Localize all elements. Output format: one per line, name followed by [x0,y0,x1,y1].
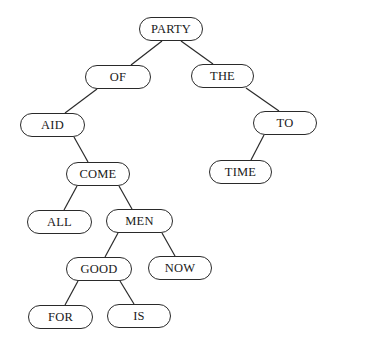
edge-good-is [120,281,134,304]
node-all: ALL [27,210,92,234]
node-label: TIME [225,165,256,180]
edge-come-all [64,186,77,210]
edge-good-for [65,281,78,305]
node-aid: AID [20,113,85,137]
edge-the-to [246,88,279,111]
node-of: OF [85,65,151,89]
node-label: OF [110,70,126,85]
edge-men-good [105,233,118,257]
node-come: COME [66,162,130,186]
node-time: TIME [209,160,272,184]
node-label: IS [133,309,145,324]
node-label: THE [210,69,235,84]
node-label: COME [80,167,117,182]
edge-to-time [251,135,264,160]
tree-edges [0,0,384,349]
node-is: IS [107,304,171,328]
node-label: GOOD [81,262,118,277]
node-label: PARTY [151,22,191,37]
edge-party-of [131,41,162,65]
edge-of-aid [65,89,97,113]
node-party: PARTY [139,17,203,41]
node-label: MEN [125,214,153,229]
node-to: TO [253,111,317,135]
edge-come-men [119,186,132,209]
edge-aid-come [74,137,88,162]
node-men: MEN [106,209,173,233]
node-for: FOR [28,305,93,329]
edge-men-now [162,233,175,256]
node-now: NOW [148,256,212,280]
tree-diagram: PARTY OF THE AID TO COME TIME ALL MEN GO… [0,0,384,349]
node-label: TO [277,116,294,131]
node-good: GOOD [66,257,132,281]
node-the: THE [191,64,254,88]
node-label: FOR [48,310,73,325]
node-label: AID [41,118,64,133]
edge-party-the [181,41,213,64]
node-label: ALL [47,215,72,230]
node-label: NOW [165,261,195,276]
